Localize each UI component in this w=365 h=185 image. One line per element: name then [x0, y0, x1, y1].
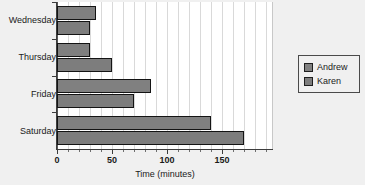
x-axis-tick-minor [266, 150, 267, 152]
legend-item-karen[interactable]: Karen [304, 74, 355, 88]
y-axis-tick [52, 112, 57, 113]
category-label-wednesday: Wednesday [0, 15, 56, 25]
bar-karen-wednesday [57, 21, 90, 35]
bar-karen-thursday [57, 58, 112, 72]
x-axis-tick-minor [79, 150, 80, 152]
category-label-friday: Friday [0, 89, 56, 99]
x-axis-tick-minor [178, 150, 179, 152]
x-axis-tick-minor [145, 150, 146, 152]
y-axis-tick [52, 76, 57, 77]
bar-karen-saturday [57, 131, 244, 145]
legend-label-andrew: Andrew [317, 62, 348, 72]
x-axis-tick-label: 0 [37, 155, 77, 165]
x-axis-tick-major [57, 150, 58, 154]
bar-karen-friday [57, 94, 134, 108]
category-label-saturday: Saturday [0, 126, 56, 136]
x-axis-tick-minor [134, 150, 135, 152]
gridline [233, 2, 234, 149]
x-axis-tick-minor [156, 150, 157, 152]
x-axis-tick-minor [101, 150, 102, 152]
x-axis-tick-label: 150 [202, 155, 242, 165]
x-axis-tick-label: 100 [147, 155, 187, 165]
x-axis-tick-major [222, 150, 223, 154]
plot-right-border [272, 2, 273, 149]
bar-andrew-wednesday [57, 6, 96, 20]
y-axis-tick [52, 39, 57, 40]
bar-andrew-thursday [57, 43, 90, 57]
category-label-thursday: Thursday [0, 52, 56, 62]
bar-andrew-saturday [57, 116, 211, 130]
bar-chart: WednesdayThursdayFridaySaturday 05010015… [0, 0, 365, 185]
x-axis-tick-minor [68, 150, 69, 152]
gridline [222, 2, 223, 149]
x-axis-tick-minor [211, 150, 212, 152]
y-axis-tick [52, 2, 57, 3]
x-axis-tick-minor [189, 150, 190, 152]
x-axis-tick-minor [233, 150, 234, 152]
legend-label-karen: Karen [317, 76, 341, 86]
x-axis-tick-minor [90, 150, 91, 152]
x-axis-tick-label: 50 [92, 155, 132, 165]
x-axis-tick-minor [255, 150, 256, 152]
x-axis-tick-minor [200, 150, 201, 152]
x-axis-tick-major [112, 150, 113, 154]
gridline [211, 2, 212, 149]
legend-swatch-andrew [304, 63, 313, 72]
legend: Andrew Karen [298, 55, 360, 93]
x-axis-tick-major [167, 150, 168, 154]
x-axis-tick-minor [244, 150, 245, 152]
legend-item-andrew[interactable]: Andrew [304, 60, 355, 74]
x-axis-tick-minor [123, 150, 124, 152]
gridline [255, 2, 256, 149]
x-axis-title: Time (minutes) [57, 169, 273, 180]
legend-swatch-karen [304, 77, 313, 86]
gridline [266, 2, 267, 149]
bar-andrew-friday [57, 79, 151, 93]
gridline [244, 2, 245, 149]
